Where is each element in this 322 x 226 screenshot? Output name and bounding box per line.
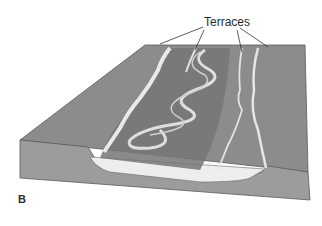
panel-label: B [18, 193, 26, 205]
terraces-annotation: Terraces [204, 15, 250, 29]
terrace-block-diagram [0, 0, 322, 226]
